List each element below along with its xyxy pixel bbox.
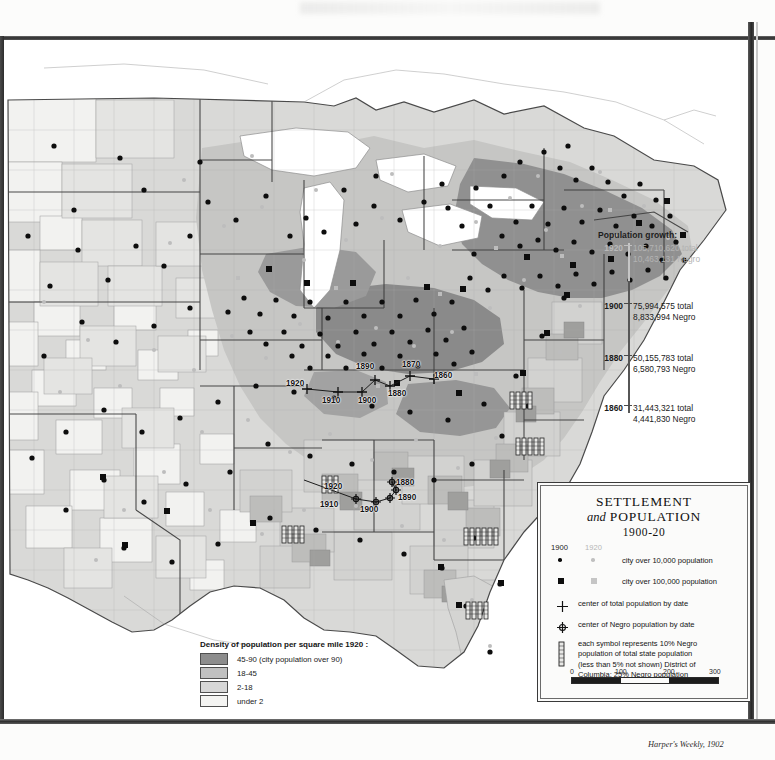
- pg-tick-1860: [624, 405, 632, 406]
- density-swatch-2-18: [200, 681, 228, 693]
- legend-label-city-10000: city over 10,000 population: [622, 556, 713, 566]
- density-legend-item-2-18: 2-18: [200, 680, 368, 694]
- scanned-page: 1920 1910 1900 1890 1880 1870 1860 1920 …: [0, 0, 775, 760]
- pg-negro-1860: 4,441,830 Negro: [633, 414, 695, 425]
- date-label-total-1860: 1860: [434, 371, 452, 380]
- date-label-total-1870: 1870: [402, 360, 420, 369]
- density-legend: Density of population per square mile 19…: [200, 640, 368, 708]
- density-legend-item-18-45: 18-45: [200, 666, 368, 680]
- pg-negro-1920: 10,463,131 Negro: [633, 254, 700, 265]
- population-growth-panel: Population growth: 1920 105,710,620 tota…: [598, 230, 748, 429]
- date-label-total-1900: 1900: [358, 396, 376, 405]
- source-credit: Harper's Weekly, 1902: [648, 740, 724, 749]
- scale-bar-ticks: 0 100 200 300: [571, 668, 719, 677]
- legend-year-1920: 1920: [585, 543, 602, 552]
- negro-population-column-icon: [557, 641, 566, 671]
- pg-total-1900: 75,994,575 total: [633, 301, 695, 312]
- circled-cross-icon: [556, 621, 569, 636]
- legend-title-line1: SETTLEMENT: [550, 494, 738, 509]
- density-legend-item-under-2: under 2: [200, 694, 368, 708]
- date-label-total-1880: 1880: [388, 389, 406, 398]
- map-legend-card: SETTLEMENT and POPULATION 1900-20 1900 1…: [537, 482, 751, 702]
- legend-entry-city-100000: city over 100,000 population: [550, 574, 738, 595]
- date-label-total-1890: 1890: [356, 362, 374, 371]
- density-label-2-18: 2-18: [237, 683, 253, 692]
- population-growth-row-1860: 1860 31,443,321 total 4,441,830 Negro: [598, 403, 748, 429]
- density-swatch-18-45: [200, 667, 228, 679]
- legend-title-line2: and POPULATION: [550, 509, 738, 525]
- scale-tick-0: 0: [570, 668, 574, 675]
- density-label-under-2: under 2: [237, 697, 263, 706]
- date-label-negro-1880: 1880: [396, 478, 414, 487]
- map-legend-inner-border: SETTLEMENT and POPULATION 1900-20 1900 1…: [540, 485, 748, 699]
- negro-note-line-1: each symbol represents 10% Negro: [578, 639, 697, 648]
- population-growth-title: Population growth:: [598, 230, 748, 240]
- page-bottom-rule: [0, 719, 775, 724]
- pg-negro-1900: 8,833,994 Negro: [633, 312, 695, 323]
- legend-year-1900: 1900: [551, 543, 568, 552]
- pg-tick-1900: [624, 303, 632, 304]
- pg-year-1920: 1920: [598, 243, 623, 254]
- population-growth-row-1880: 1880 50,155,783 total 6,580,793 Negro: [598, 353, 748, 403]
- population-growth-row-1920: 1920 105,710,620 total 10,463,131 Negro: [598, 243, 748, 301]
- pg-total-1920: 105,710,620 total: [633, 243, 700, 254]
- density-label-45-90: 45-90 (city population over 90): [237, 655, 342, 664]
- date-label-negro-1890: 1890: [398, 493, 416, 502]
- page-right-border-outer: [756, 22, 758, 722]
- date-label-negro-1900: 1900: [360, 505, 378, 514]
- city-100000-dot-1920-icon: [591, 579, 597, 584]
- plus-cross-icon: [556, 600, 569, 615]
- scale-tick-200: 200: [663, 668, 675, 675]
- scale-tick-100: 100: [615, 668, 627, 675]
- legend-title: SETTLEMENT and POPULATION 1900-20: [550, 494, 738, 539]
- pg-tick-1880: [624, 355, 632, 356]
- scale-tick-300: 300: [709, 668, 721, 675]
- legend-entry-city-10000: city over 10,000 population: [550, 553, 738, 574]
- legend-title-population: POPULATION: [610, 509, 701, 524]
- legend-year-headers: 1900 1920: [550, 543, 738, 553]
- legend-entry-center-negro: center of Negro population by date: [550, 616, 738, 637]
- pg-year-1880: 1880: [598, 353, 623, 364]
- date-label-total-1910: 1910: [322, 396, 340, 405]
- legend-entry-center-total: center of total population by date: [550, 595, 738, 616]
- scan-bleed-through: [300, 2, 600, 14]
- density-swatch-45-90: [200, 653, 228, 665]
- legend-title-and: and: [587, 510, 606, 524]
- legend-label-city-100000: city over 100,000 population: [622, 577, 717, 587]
- negro-note-line-2: population of total state population: [578, 649, 692, 658]
- population-growth-row-1900: 1900 75,994,575 total 8,833,994 Negro: [598, 301, 748, 353]
- density-label-18-45: 18-45: [237, 669, 257, 678]
- scale-bar-segments: [571, 677, 719, 684]
- city-100000-dot-1900-icon: [558, 579, 564, 584]
- city-10000-dot-1900-icon: [558, 558, 562, 562]
- density-legend-item-45-90: 45-90 (city population over 90): [200, 652, 368, 666]
- city-10000-dot-1920-icon: [591, 558, 595, 562]
- pg-total-1880: 50,155,783 total: [633, 353, 695, 364]
- date-label-total-1920: 1920: [286, 379, 304, 388]
- date-label-negro-1920: 1920: [324, 482, 342, 491]
- legend-label-center-negro: center of Negro population by date: [578, 620, 695, 630]
- density-legend-title: Density of population per square mile 19…: [200, 640, 368, 649]
- pg-year-1860: 1860: [598, 403, 623, 414]
- pg-tick-1920: [624, 245, 632, 246]
- pg-negro-1880: 6,580,793 Negro: [633, 364, 695, 375]
- legend-title-years: 1900-20: [550, 525, 738, 539]
- pg-year-1900: 1900: [598, 301, 623, 312]
- pg-total-1860: 31,443,321 total: [633, 403, 695, 414]
- density-swatch-under-2: [200, 695, 228, 707]
- date-label-negro-1910: 1910: [320, 500, 338, 509]
- legend-label-center-total: center of total population by date: [578, 599, 688, 609]
- map-scale-bar: 0 100 200 300: [571, 668, 719, 684]
